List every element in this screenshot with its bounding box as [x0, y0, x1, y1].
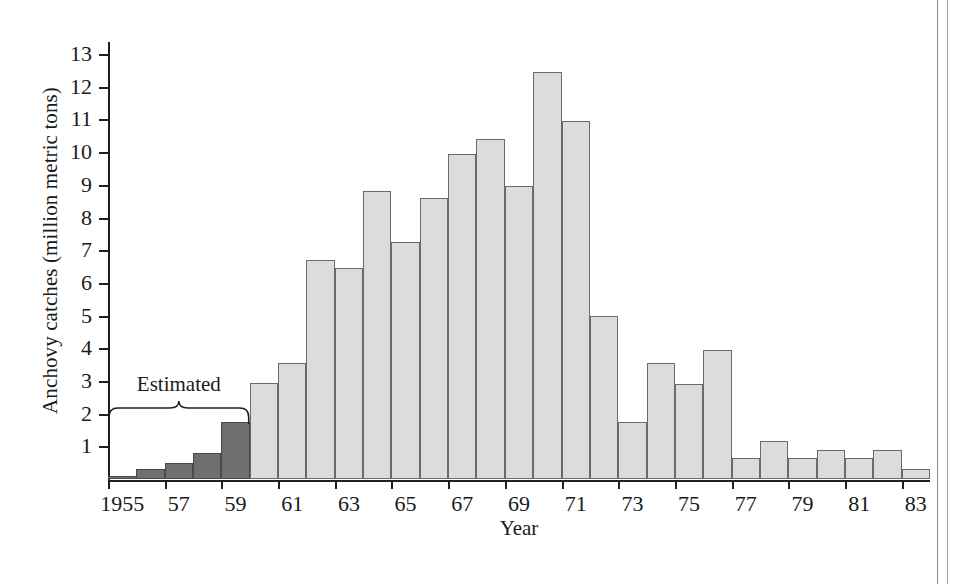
x-axis-tick [675, 480, 677, 489]
bar [703, 350, 731, 479]
y-axis-tick [99, 119, 110, 121]
bar [817, 450, 845, 479]
bar [391, 242, 419, 479]
bar [788, 458, 816, 479]
x-axis-tick [448, 480, 450, 489]
bar [476, 139, 504, 479]
bar [250, 383, 278, 479]
y-axis-tick [99, 87, 110, 89]
bar [420, 198, 448, 479]
bar [136, 469, 164, 479]
y-axis-tick-label: 3 [58, 370, 92, 392]
y-axis-tick-label: 7 [58, 239, 92, 261]
y-axis-tick-label: 13 [58, 43, 92, 65]
x-axis-tick [732, 480, 734, 489]
y-axis-tick-label: 6 [58, 272, 92, 294]
figure-page: Anchovy catches (million metric tons) 12… [0, 0, 964, 584]
x-axis-tick [391, 480, 393, 489]
x-axis-tick-label: 83 [881, 492, 951, 516]
bar [590, 316, 618, 479]
x-axis-tick [221, 480, 223, 489]
x-axis-tick [562, 480, 564, 489]
y-axis-tick [99, 54, 110, 56]
y-axis-tick [99, 283, 110, 285]
bar [647, 363, 675, 479]
y-axis-tick-label: 4 [58, 337, 92, 359]
y-axis-tick-label: 12 [58, 76, 92, 98]
y-axis-tick-label: 1 [58, 435, 92, 457]
x-axis-tick [902, 480, 904, 489]
bar [335, 268, 363, 479]
y-axis-tick [99, 316, 110, 318]
y-axis-tick [99, 348, 110, 350]
brace-icon [108, 400, 250, 426]
bar [562, 121, 590, 479]
bar [845, 458, 873, 479]
y-axis-tick [99, 185, 110, 187]
y-axis-tick-label: 11 [58, 108, 92, 130]
bar [618, 422, 646, 479]
x-axis-tick [335, 480, 337, 489]
y-axis-tick-label: 9 [58, 174, 92, 196]
estimated-brace [108, 400, 250, 426]
x-axis-tick [788, 480, 790, 489]
y-axis-tick-label: 2 [58, 403, 92, 425]
bar [505, 186, 533, 479]
bar [306, 260, 334, 479]
bar [363, 191, 391, 479]
y-axis-tick [99, 218, 110, 220]
bar [902, 469, 930, 479]
y-axis-tick-label: 5 [58, 305, 92, 327]
estimated-annotation-label: Estimated [108, 374, 250, 395]
bar [193, 453, 221, 479]
bar [732, 458, 760, 479]
y-axis-tick [99, 446, 110, 448]
x-axis-tick [108, 480, 110, 489]
x-axis-tick [505, 480, 507, 489]
bar [533, 72, 561, 479]
x-axis-tick [165, 480, 167, 489]
x-axis-tick [278, 480, 280, 489]
x-axis-line [108, 480, 930, 482]
bar [165, 463, 193, 479]
y-axis-tick-label: 10 [58, 141, 92, 163]
bar [873, 450, 901, 479]
bar [760, 441, 788, 479]
plot-area: 12345678910111213 1955575961636567697173… [108, 42, 930, 480]
bar [221, 422, 249, 479]
y-axis-tick [99, 250, 110, 252]
bar [448, 154, 476, 479]
x-axis-tick [618, 480, 620, 489]
y-axis-tick-label: 8 [58, 207, 92, 229]
x-axis-title: Year [108, 516, 930, 541]
bar [278, 363, 306, 479]
bar [675, 384, 703, 479]
y-axis-tick [99, 152, 110, 154]
bar-chart-figure: Anchovy catches (million metric tons) 12… [0, 0, 930, 584]
bar [108, 476, 136, 479]
x-axis-tick [845, 480, 847, 489]
